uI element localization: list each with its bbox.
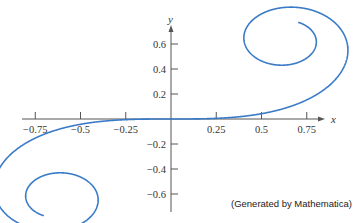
credit-annotation: (Generated by Mathematica) <box>231 198 352 209</box>
y-tick-label: 0.6 <box>153 39 166 50</box>
chart: xy−0.75−0.5−0.250.250.50.750.60.40.2−0.2… <box>0 0 353 223</box>
spiral-curve <box>0 7 348 223</box>
y-axis-label: y <box>167 13 173 25</box>
y-tick-label: −0.4 <box>147 164 167 175</box>
x-tick-label: −0.75 <box>23 124 47 135</box>
x-tick-label: 0.75 <box>298 124 316 135</box>
y-tick-label: 0.2 <box>153 89 166 100</box>
axes: xy−0.75−0.5−0.250.250.50.750.60.40.2−0.2… <box>22 13 336 212</box>
y-tick-label: 0.4 <box>153 64 167 75</box>
x-tick-label: 0.25 <box>207 124 225 135</box>
x-axis-arrow-icon <box>318 117 325 122</box>
x-tick-label: 0.5 <box>255 124 268 135</box>
x-tick-label: −0.25 <box>114 124 138 135</box>
y-tick-label: −0.6 <box>147 189 166 200</box>
y-tick-label: −0.2 <box>147 139 166 150</box>
x-axis-label: x <box>330 113 336 125</box>
y-axis-arrow-icon <box>169 25 174 32</box>
